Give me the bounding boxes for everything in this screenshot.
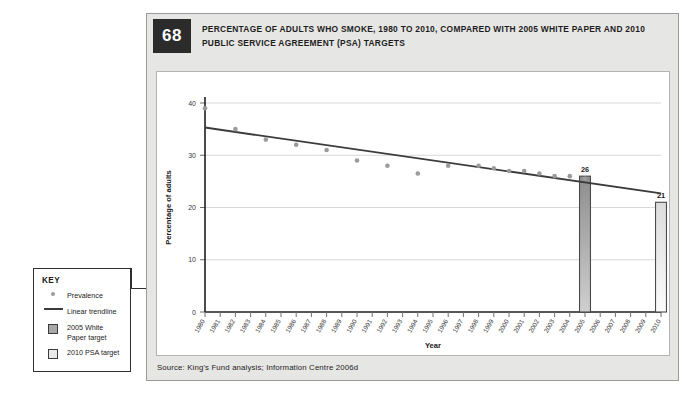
svg-text:2007: 2007 — [603, 318, 616, 334]
key-item-white-paper-target: 2005 White Paper target — [42, 323, 122, 343]
svg-text:2001: 2001 — [512, 318, 525, 334]
svg-text:1992: 1992 — [375, 318, 388, 334]
svg-text:1988: 1988 — [314, 318, 327, 334]
svg-text:2003: 2003 — [542, 318, 555, 334]
svg-text:1997: 1997 — [451, 318, 464, 334]
svg-text:1984: 1984 — [253, 318, 266, 334]
svg-text:1993: 1993 — [390, 318, 403, 334]
key-item-label: Linear trendline — [64, 307, 117, 317]
chart-key-box: KEY Prevalence Linear trendline 2005 Whi… — [33, 268, 131, 372]
svg-text:10: 10 — [188, 256, 196, 263]
figure-number-badge: 68 — [153, 19, 191, 53]
svg-text:1989: 1989 — [329, 318, 342, 334]
svg-text:1982: 1982 — [223, 318, 236, 334]
svg-text:1987: 1987 — [299, 318, 312, 334]
svg-text:1996: 1996 — [436, 318, 449, 334]
source-note: Source: King's Fund analysis; Informatio… — [157, 363, 358, 372]
svg-text:1981: 1981 — [208, 318, 221, 334]
svg-text:1999: 1999 — [481, 318, 494, 334]
svg-text:1985: 1985 — [269, 318, 282, 334]
key-item-label: 2010 PSA target — [64, 348, 119, 358]
svg-text:2002: 2002 — [527, 318, 540, 334]
key-item-label: 2005 White Paper target — [64, 323, 122, 343]
smoking-prevalence-chart: 010203040Percentage of adults19801981198… — [157, 72, 671, 357]
svg-text:2004: 2004 — [557, 318, 570, 334]
svg-text:1980: 1980 — [193, 318, 206, 334]
svg-text:20: 20 — [188, 204, 196, 211]
svg-text:2005: 2005 — [573, 318, 586, 334]
page-title: PERCENTAGE OF ADULTS WHO SMOKE, 1980 TO … — [202, 23, 668, 50]
key-connector-vertical — [131, 268, 132, 289]
dark-square-icon — [42, 323, 64, 334]
prevalence-dot-icon — [42, 291, 64, 296]
svg-text:30: 30 — [188, 152, 196, 159]
key-item-prevalence: Prevalence — [42, 291, 122, 302]
svg-text:26: 26 — [581, 165, 589, 174]
light-square-icon — [42, 348, 64, 359]
svg-text:Year: Year — [425, 341, 441, 350]
plot-panel: 010203040Percentage of adults19801981198… — [156, 71, 670, 356]
key-item-psa-target: 2010 PSA target — [42, 348, 122, 359]
svg-text:1998: 1998 — [466, 318, 479, 334]
key-item-trendline: Linear trendline — [42, 307, 122, 318]
svg-text:2000: 2000 — [497, 318, 510, 334]
svg-text:1986: 1986 — [284, 318, 297, 334]
svg-text:40: 40 — [188, 100, 196, 107]
key-connector-horizontal — [131, 288, 146, 289]
svg-text:2009: 2009 — [633, 318, 646, 334]
svg-text:0: 0 — [192, 309, 196, 316]
svg-text:2008: 2008 — [618, 318, 631, 334]
key-heading: KEY — [42, 276, 122, 285]
svg-text:1990: 1990 — [345, 318, 358, 334]
figure-container: 68 PERCENTAGE OF ADULTS WHO SMOKE, 1980 … — [146, 13, 679, 381]
key-item-label: Prevalence — [64, 291, 103, 301]
figure-title-band: 68 PERCENTAGE OF ADULTS WHO SMOKE, 1980 … — [147, 14, 678, 66]
svg-text:1995: 1995 — [421, 318, 434, 334]
svg-text:Percentage of adults: Percentage of adults — [164, 170, 173, 245]
svg-text:1983: 1983 — [238, 318, 251, 334]
svg-text:2010: 2010 — [649, 318, 662, 334]
trendline-line-icon — [42, 307, 64, 310]
svg-text:1991: 1991 — [360, 318, 373, 334]
svg-text:1994: 1994 — [405, 318, 418, 334]
svg-text:2006: 2006 — [588, 318, 601, 334]
